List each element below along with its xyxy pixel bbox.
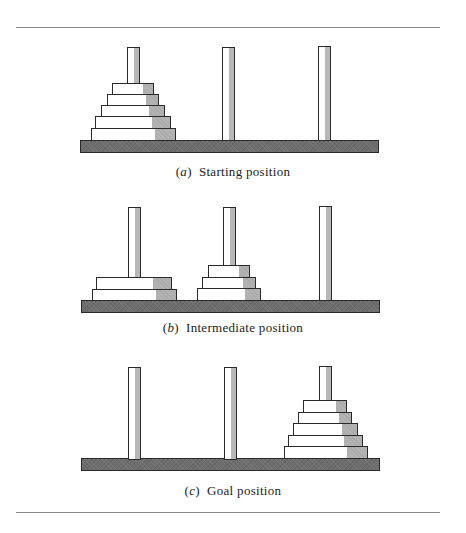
peg-3 [318, 46, 331, 141]
disk-3 [197, 288, 261, 301]
peg-3 [319, 206, 332, 301]
disk-5 [91, 128, 176, 141]
peg-2 [222, 47, 235, 141]
caption-b: (b) Intermediate position [0, 320, 466, 336]
peg-3 [319, 366, 332, 402]
caption-a: (a) Starting position [0, 164, 466, 180]
peg-1 [128, 207, 141, 279]
peg-1 [127, 47, 140, 85]
peg-2 [224, 367, 237, 460]
peg-1 [128, 367, 141, 460]
base-board [81, 300, 380, 313]
disk-5 [284, 446, 368, 459]
peg-2 [223, 207, 236, 267]
top-rule [16, 27, 440, 28]
disk-5 [92, 289, 177, 301]
caption-c: (c) Goal position [0, 483, 466, 499]
bottom-rule [16, 512, 440, 513]
base-board [80, 140, 379, 153]
